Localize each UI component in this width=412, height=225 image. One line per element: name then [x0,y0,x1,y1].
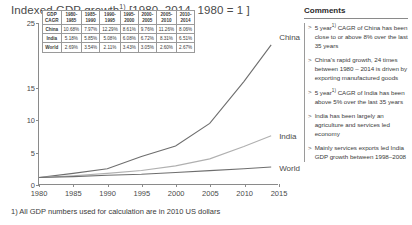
cagr-cell: 5.08% [100,34,121,43]
cagr-cell: 11.26% [156,25,176,34]
cagr-cell: 7.97% [82,25,100,34]
cagr-cell: 8.06% [177,25,195,34]
comment-text: India has been largely an agriculture an… [315,112,408,139]
x-axis-tick-1985: 1985 [65,189,82,198]
x-axis-tick-2005: 2005 [202,189,219,198]
x-axis-tick-1980: 1980 [31,189,48,198]
corner-label-line1: GDP [45,12,59,17]
x-axis-tickmark [279,184,280,187]
cagr-row-label-world: World [43,43,62,52]
col-header-line1: 1995- [123,12,136,17]
cagr-cell: 6.72% [138,34,156,43]
cagr-table-head: GDP CAGR 1980-19851985-19901990-19951995… [43,11,195,25]
bullet-marker-icon: > [308,112,312,139]
comment-text: 5 year1) CAGR of India has been above 5%… [315,88,408,107]
comment-bullet-0: >5 year1) CAGR of China has been close t… [308,23,408,51]
cagr-cell: 3.05% [138,43,156,52]
x-axis-tick-2010: 2010 [236,189,253,198]
cagr-table: GDP CAGR 1980-19851985-19901990-19951995… [42,10,195,53]
cagr-row-label-china: China [43,25,62,34]
comment-text: Mainly services exports led India GDP gr… [315,144,408,162]
y-axis-tickmark [36,23,39,24]
x-axis-tickmark [176,184,177,187]
col-header-line2: 1995 [102,18,118,23]
x-axis-tickmark [39,184,40,187]
x-axis-tick-1990: 1990 [99,189,116,198]
bullet-marker-icon: > [308,56,312,83]
table-row: World2.69%3.54%2.11%3.43%3.05%2.60%2.67% [43,43,195,52]
cagr-row-label-india: India [43,34,62,43]
col-header-line1: 2005- [159,12,174,17]
y-axis-tickmark [36,120,39,121]
x-axis-tickmark [210,184,211,187]
cagr-table-col-header-1: 1985-1990 [82,11,100,25]
footnote-marker: 1) [332,88,336,93]
cagr-cell: 3.43% [120,43,138,52]
cagr-cell: 2.11% [100,43,121,52]
cagr-cell: 8.61% [120,25,138,34]
cagr-cell: 8.31% [156,34,176,43]
bullet-marker-icon: > [308,88,312,107]
cagr-cell: 2.60% [156,43,176,52]
series-label-world: World [279,164,300,173]
cagr-table-header-row: GDP CAGR 1980-19851985-19901990-19951995… [43,11,195,25]
table-row: India5.18%5.85%5.08%6.08%6.72%8.31%6.51% [43,34,195,43]
col-header-line2: 2000 [123,18,136,23]
series-line-india [39,136,271,178]
col-header-line1: 1980- [64,12,80,17]
comments-panel: Comments >5 year1) CAGR of China has bee… [304,6,408,167]
comment-bullet-3: >India has been largely an agriculture a… [308,112,408,139]
col-header-line1: 1985- [84,12,97,17]
x-axis-tick-2015: 2015 [271,189,288,198]
series-label-india: India [279,132,296,141]
cagr-table-col-header-4: 2000-2005 [138,11,156,25]
cagr-cell: 3.54% [82,43,100,52]
x-axis-tickmark [108,184,109,187]
col-header-line1: 1990- [102,12,118,17]
bullet-marker-icon: > [308,144,312,162]
col-header-line2: 2010 [159,18,174,23]
y-axis-tick-15: 15 [27,83,35,92]
cagr-table-body: China10.68%7.97%12.29%8.61%9.76%11.26%8.… [43,25,195,52]
cagr-table-col-header-2: 1990-1995 [100,11,121,25]
comment-text: China's rapid growth, 24 times between 1… [315,56,408,83]
bullet-marker-icon: > [308,23,312,51]
cagr-table-col-header-6: 2010-2014 [177,11,195,25]
comments-list: >5 year1) CAGR of China has been close t… [304,23,408,162]
col-header-line1: 2010- [179,12,192,17]
x-axis-tickmark [245,184,246,187]
col-header-line1: 2000- [141,12,154,17]
cagr-cell: 12.29% [100,25,121,34]
comments-divider [304,18,408,19]
table-row: China10.68%7.97%12.29%8.61%9.76%11.26%8.… [43,25,195,34]
cagr-cell: 5.85% [82,34,100,43]
series-line-china [39,45,271,178]
x-axis-tick-2000: 2000 [168,189,185,198]
y-axis-tickmark [36,88,39,89]
y-axis-tick-10: 10 [27,116,35,125]
footnote: 1) All GDP numbers used for calculation … [11,207,220,216]
y-axis-tickmark [36,153,39,154]
comments-heading: Comments [304,6,408,15]
comment-text: 5 year1) CAGR of China has been close to… [315,23,408,51]
cagr-table-corner-header: GDP CAGR [43,11,62,25]
x-axis-tick-1995: 1995 [134,189,151,198]
x-axis-tickmark [73,184,74,187]
cagr-cell: 2.69% [61,43,82,52]
cagr-cell: 2.67% [177,43,195,52]
footnote-marker: 1) [332,23,336,28]
col-header-line2: 1985 [64,18,80,23]
cagr-table-col-header-3: 1995-2000 [120,11,138,25]
cagr-cell: 9.76% [138,25,156,34]
comment-bullet-4: >Mainly services exports led India GDP g… [308,144,408,162]
cagr-cell: 6.51% [177,34,195,43]
y-axis-tick-5: 5 [31,148,35,157]
corner-label-line2: CAGR [45,18,59,23]
cagr-cell: 10.68% [61,25,82,34]
cagr-cell: 5.18% [61,34,82,43]
y-axis-tick-25: 25 [27,19,35,28]
cagr-cell: 6.08% [120,34,138,43]
cagr-table-col-header-0: 1980-1985 [61,11,82,25]
comment-bullet-1: >China's rapid growth, 24 times between … [308,56,408,83]
col-header-line2: 2014 [179,18,192,23]
